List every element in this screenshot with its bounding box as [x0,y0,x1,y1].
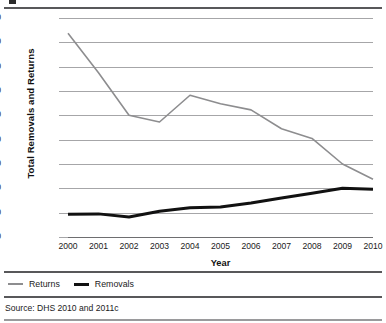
y-axis-tick [59,67,68,68]
y-axis-tick-label: 1,000,000 [0,109,1,119]
y-axis-tick [59,18,68,19]
legend-label-returns: Returns [29,279,60,289]
y-axis-tick-label: 200,000 [0,207,1,217]
x-axis-tick-label: 2010 [353,241,386,251]
y-axis-tick [59,164,68,165]
caption-remnant [9,0,16,4]
divider-legend-bottom [4,296,382,298]
y-axis-tick-label: 1,200,000 [0,85,1,95]
removals-line-swatch-icon [74,283,89,286]
series-line-removals [68,188,373,217]
legend-item-returns: Returns [8,279,60,289]
y-axis-tick [59,237,68,238]
y-axis-tick-label: 400,000 [0,182,1,192]
gridline [68,237,373,238]
y-axis-tick-label: 600,000 [0,158,1,168]
y-axis-tick [59,188,68,189]
y-axis-tick-label: 1,400,000 [0,61,1,71]
chart-legend: Returns Removals [8,276,134,292]
y-axis-tick [59,140,68,141]
divider-top [4,7,382,9]
returns-line-swatch-icon [8,283,23,285]
y-axis-tick-label: 1,800,000 [0,12,1,22]
chart-figure: Total Removals and Returns 1,800,0001,60… [0,0,386,323]
divider-legend-top [4,271,382,273]
y-axis-title: Total Removals and Returns [25,24,36,204]
legend-item-removals: Removals [74,279,134,289]
source-note: Source: DHS 2010 and 2011c [5,303,119,313]
y-axis-tick-label: 800,000 [0,134,1,144]
y-axis-tick-label: 1,600,000 [0,36,1,46]
y-axis-tick [59,42,68,43]
divider-bottom [4,319,382,321]
x-axis-title: Year [68,258,373,268]
y-axis-tick-label: 0 [0,231,1,241]
plot-area: 1,800,0001,600,0001,400,0001,200,0001,00… [68,18,373,237]
legend-label-removals: Removals [95,279,134,289]
x-axis-tick-labels: 2000200120022003200420052006200720082009… [68,241,373,253]
series-layer [68,18,373,237]
y-axis-tick [59,91,68,92]
y-axis-tick [59,115,68,116]
y-axis-tick [59,213,68,214]
series-line-returns [68,33,373,179]
